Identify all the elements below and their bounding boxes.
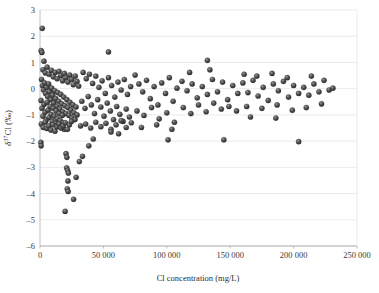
data-point — [152, 84, 157, 89]
data-point — [115, 80, 120, 85]
data-point — [167, 75, 172, 80]
data-point — [81, 70, 86, 75]
y-tick-label: 1 — [31, 58, 35, 68]
data-point — [181, 105, 186, 110]
data-point — [254, 73, 259, 78]
data-point — [74, 112, 79, 117]
y-tick-label: –1 — [26, 110, 36, 120]
data-point — [311, 81, 316, 86]
data-point — [157, 116, 162, 121]
data-point — [76, 83, 81, 88]
data-point — [71, 197, 76, 202]
scatter-chart-figure: 3210–1–2–3–4–5–6 050 000100 000150 00020… — [0, 0, 379, 293]
y-tick-label: –6 — [26, 241, 36, 251]
data-point — [91, 136, 96, 141]
data-point — [296, 139, 301, 144]
data-point — [60, 113, 65, 118]
data-point — [119, 118, 124, 123]
data-point — [234, 108, 239, 113]
y-tick-label: 3 — [31, 5, 35, 15]
data-point — [78, 123, 83, 128]
data-point — [165, 137, 170, 142]
y-tick-label: –5 — [26, 215, 36, 225]
data-point — [74, 79, 79, 84]
data-point — [124, 125, 129, 130]
data-point — [82, 106, 87, 111]
data-point — [96, 85, 101, 90]
data-point — [73, 73, 78, 78]
data-point — [244, 104, 249, 109]
data-point — [114, 104, 119, 109]
data-point — [65, 178, 70, 183]
chart-background — [0, 0, 379, 293]
data-point — [200, 84, 205, 89]
data-point — [80, 154, 85, 159]
data-point — [136, 81, 141, 86]
data-point — [93, 73, 98, 78]
data-point — [112, 94, 117, 99]
data-point — [296, 91, 301, 96]
data-point — [83, 121, 88, 126]
data-point — [163, 91, 168, 96]
data-point — [116, 131, 121, 136]
data-point — [205, 92, 210, 97]
data-point — [98, 104, 103, 109]
data-point — [117, 112, 122, 117]
data-point — [245, 90, 250, 95]
data-point — [127, 114, 132, 119]
data-point — [219, 107, 224, 112]
data-point — [108, 129, 113, 134]
data-point — [134, 108, 139, 113]
y-tick-label: 0 — [31, 84, 35, 94]
data-point — [220, 80, 225, 85]
data-point — [316, 89, 321, 94]
data-point — [84, 76, 89, 81]
data-point — [215, 89, 220, 94]
data-point — [139, 125, 144, 130]
data-point — [207, 67, 212, 72]
chart-canvas: 3210–1–2–3–4–5–6 050 000100 000150 00020… — [0, 0, 379, 293]
data-point — [271, 81, 276, 86]
data-point — [276, 88, 281, 93]
data-point — [86, 94, 91, 99]
data-point — [190, 81, 195, 86]
data-point — [149, 105, 154, 110]
data-point — [140, 89, 145, 94]
data-point — [89, 102, 94, 107]
x-tick-label: 50 000 — [92, 250, 115, 260]
data-point — [275, 102, 280, 107]
data-point — [225, 97, 230, 102]
data-point — [301, 85, 306, 90]
data-point — [77, 159, 82, 164]
data-point — [261, 85, 266, 90]
data-point — [103, 121, 108, 126]
data-point — [230, 83, 235, 88]
y-tick-label: –2 — [26, 136, 36, 146]
data-point — [90, 81, 95, 86]
data-point — [144, 78, 149, 83]
data-point — [187, 70, 192, 75]
data-point — [98, 124, 103, 129]
y-tick-label: 2 — [31, 31, 35, 41]
data-point — [210, 77, 215, 82]
data-point — [148, 96, 153, 101]
data-point — [108, 108, 113, 113]
data-point — [122, 77, 127, 82]
data-point — [164, 110, 169, 115]
data-point — [106, 49, 111, 54]
data-point — [174, 86, 179, 91]
data-point — [109, 83, 114, 88]
data-point — [226, 104, 231, 109]
data-point — [111, 117, 116, 122]
data-point — [250, 78, 255, 83]
data-point — [87, 72, 92, 77]
data-point — [242, 72, 247, 77]
y-tick-label: –3 — [26, 162, 36, 172]
data-point — [133, 72, 138, 77]
data-point — [256, 93, 261, 98]
data-point — [86, 143, 91, 148]
data-point — [240, 80, 245, 85]
data-point — [66, 171, 71, 176]
data-point — [172, 120, 177, 125]
x-tick-label: 200 000 — [280, 250, 308, 260]
